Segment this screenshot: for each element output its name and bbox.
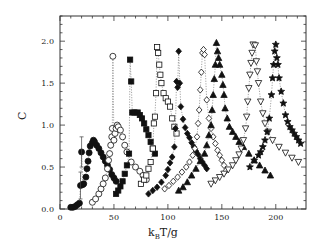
data-point	[188, 172, 194, 178]
data-point	[129, 79, 134, 84]
y-tick-label: 1.5	[41, 79, 54, 88]
data-point	[104, 166, 110, 172]
data-point	[254, 69, 260, 75]
data-point	[148, 159, 153, 164]
data-point	[110, 53, 116, 59]
data-point	[246, 150, 252, 156]
data-point	[117, 127, 123, 133]
x-axis-label: kBT/g	[148, 226, 178, 241]
data-point	[195, 120, 201, 126]
data-point	[282, 150, 288, 156]
data-point	[86, 150, 92, 156]
data-point	[262, 137, 269, 144]
data-point	[169, 154, 175, 160]
data-point	[158, 72, 163, 77]
data-point	[162, 186, 168, 192]
data-point	[120, 134, 126, 140]
data-point	[111, 137, 117, 143]
data-point	[81, 181, 87, 187]
data-point	[220, 81, 226, 87]
data-point	[193, 165, 199, 171]
data-point	[148, 139, 153, 144]
data-point	[226, 123, 232, 129]
data-point	[246, 86, 252, 92]
data-point	[159, 81, 164, 86]
data-point	[196, 107, 202, 113]
data-point	[165, 166, 171, 172]
data-point	[208, 122, 214, 128]
data-point	[266, 115, 273, 122]
data-point	[76, 200, 82, 206]
data-point	[184, 179, 190, 185]
data-point	[211, 76, 217, 82]
data-point	[248, 60, 254, 66]
data-series	[68, 39, 304, 210]
data-point	[236, 152, 242, 158]
data-point	[182, 124, 188, 130]
data-point	[150, 146, 155, 151]
data-point	[206, 115, 212, 121]
y-tick-label: 0.5	[41, 163, 54, 172]
data-point	[276, 144, 282, 150]
data-point	[221, 91, 227, 97]
data-point	[271, 48, 278, 55]
data-point	[146, 191, 152, 197]
data-point	[106, 157, 112, 163]
data-point	[124, 163, 129, 168]
data-point	[142, 121, 147, 126]
data-point	[253, 59, 259, 65]
data-point	[249, 50, 255, 56]
data-point	[150, 187, 156, 193]
data-point	[170, 116, 175, 121]
data-point	[102, 175, 108, 181]
data-point	[180, 116, 186, 122]
data-point	[295, 159, 301, 165]
data-point	[118, 184, 123, 189]
data-point	[178, 103, 184, 109]
data-point	[187, 159, 193, 165]
data-point	[167, 160, 173, 166]
data-point	[247, 72, 253, 78]
data-point	[126, 151, 131, 156]
data-point	[269, 75, 276, 82]
data-point	[83, 174, 89, 180]
data-point	[122, 142, 128, 148]
y-axis-label: C	[16, 112, 29, 120]
x-tick-label: 0	[57, 213, 62, 222]
data-point	[272, 41, 279, 48]
data-point	[146, 133, 151, 138]
data-point	[219, 71, 225, 77]
data-point	[167, 104, 172, 109]
data-point	[139, 116, 144, 121]
data-point	[245, 99, 251, 105]
data-point	[197, 87, 203, 93]
data-point	[213, 140, 219, 146]
data-point	[222, 105, 228, 111]
x-tick-label: 50	[109, 213, 119, 222]
data-point	[85, 158, 91, 164]
data-point	[273, 54, 280, 61]
data-point	[209, 107, 215, 113]
data-point	[122, 171, 127, 176]
data-point	[144, 173, 149, 178]
data-point	[174, 131, 179, 136]
y-tick-label: 0.0	[41, 205, 54, 214]
x-tick-label: 150	[214, 213, 229, 222]
data-point	[153, 91, 158, 96]
data-point	[199, 69, 205, 75]
x-tick-label: 100	[160, 213, 175, 222]
data-point	[214, 48, 220, 54]
data-point	[151, 121, 156, 126]
data-point	[194, 134, 200, 140]
data-point	[161, 91, 166, 96]
data-point	[210, 91, 216, 97]
data-point	[204, 97, 210, 103]
specific-heat-chart: 0501001502000.00.51.01.52.0 C kBT/g	[0, 0, 328, 245]
data-point	[176, 48, 182, 54]
y-tick-label: 2.0	[41, 37, 54, 46]
data-point	[255, 81, 261, 87]
x-tick-label: 200	[268, 213, 283, 222]
data-point	[128, 57, 133, 62]
plot-border	[60, 16, 306, 209]
data-point	[206, 132, 212, 138]
